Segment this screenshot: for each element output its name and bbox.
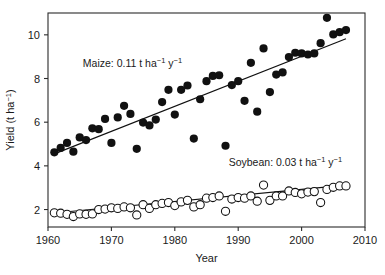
data-point-maize [145, 121, 153, 129]
y-tick-label: 8 [34, 73, 40, 85]
data-point-maize [158, 98, 166, 106]
data-point-maize [278, 68, 286, 76]
data-point-maize [240, 97, 248, 105]
data-point-maize [183, 81, 191, 89]
data-point-soybean [310, 188, 318, 196]
data-point-soybean [342, 182, 350, 190]
data-point-maize [107, 139, 115, 147]
maize-rate-label: Maize: 0.11 t ha−1 y−1 [83, 56, 182, 69]
data-point-maize [317, 39, 325, 47]
data-point-maize [114, 113, 122, 121]
x-tick-label: 1990 [226, 234, 250, 246]
data-point-maize [164, 86, 172, 94]
data-point-soybean [196, 201, 204, 209]
data-point-maize [120, 102, 128, 110]
data-points [50, 14, 350, 221]
data-point-soybean [133, 211, 141, 219]
data-point-maize [259, 44, 267, 52]
data-point-maize [101, 115, 109, 123]
y-tick-label: 6 [34, 116, 40, 128]
scatter-plot: 246810 196019701980199020002010 Maize: 0… [0, 0, 385, 275]
soybean-rate-label: Soybean: 0.03 t ha−1 y−1 [229, 155, 342, 168]
data-point-soybean [253, 197, 261, 205]
y-tick-label: 10 [28, 29, 40, 41]
x-tick-label: 1970 [99, 234, 123, 246]
data-point-maize [82, 136, 90, 144]
x-tick-label: 2010 [353, 234, 377, 246]
chart-container: 246810 196019701980199020002010 Maize: 0… [0, 0, 385, 275]
data-point-maize [196, 95, 204, 103]
data-point-maize [253, 108, 261, 116]
data-point-maize [133, 145, 141, 153]
data-point-soybean [215, 192, 223, 200]
data-point-soybean [126, 204, 134, 212]
data-point-maize [202, 77, 210, 85]
x-axis-ticks: 196019701980199020002010 [36, 227, 377, 246]
data-point-maize [63, 139, 71, 147]
y-axis-title: Yield (t ha−1) [4, 89, 17, 150]
data-point-maize [266, 88, 274, 96]
x-tick-label: 2000 [289, 234, 313, 246]
data-point-soybean [221, 207, 229, 215]
data-point-soybean [183, 196, 191, 204]
data-point-maize [69, 148, 77, 156]
x-tick-label: 1980 [163, 234, 187, 246]
data-point-maize [221, 142, 229, 150]
data-point-maize [95, 125, 103, 133]
x-tick-label: 1960 [36, 234, 60, 246]
data-point-maize [126, 110, 134, 118]
data-point-maize [171, 110, 179, 118]
data-point-maize [310, 49, 318, 57]
data-point-maize [190, 134, 198, 142]
data-point-maize [323, 14, 331, 22]
y-axis-ticks: 246810 [28, 29, 48, 216]
data-point-maize [247, 59, 255, 67]
x-axis-title: Year [195, 252, 218, 264]
y-tick-label: 2 [34, 204, 40, 216]
y-tick-label: 4 [34, 160, 40, 172]
data-point-soybean [259, 181, 267, 189]
data-point-maize [152, 115, 160, 123]
data-point-maize [215, 71, 223, 79]
data-point-maize [342, 26, 350, 34]
data-point-soybean [317, 198, 325, 206]
data-point-maize [234, 77, 242, 85]
